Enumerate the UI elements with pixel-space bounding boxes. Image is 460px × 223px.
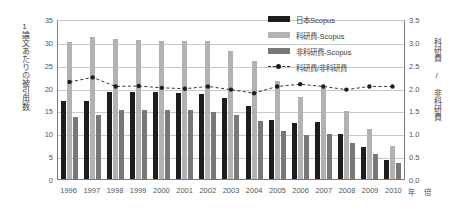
legend-line-marker-icon [268,63,290,71]
x-axis-tick: 2003 [219,186,242,195]
bar [199,94,204,179]
bar [373,154,378,179]
bar-group [173,21,196,179]
y-axis-right-unit-label: 倍 [424,186,431,197]
bar [107,92,112,179]
bar-group [81,21,104,179]
bar [350,143,355,179]
bar [269,120,274,179]
bar [96,115,101,179]
bar-group [243,21,266,179]
y-axis-right-tick: 3.0 [409,39,435,48]
x-axis-tick: 2008 [335,186,358,195]
bar [84,101,89,179]
bar [228,51,233,179]
bar-group [219,21,242,179]
y-axis-left-title: 1論文あたりの被引用数 [20,22,29,172]
x-axis-tick: 2007 [312,186,335,195]
bar [338,134,343,179]
bar-group [196,21,219,179]
x-axis-tick: 2009 [359,186,382,195]
y-axis-right-title: 科研費 / 非科研費 [432,38,441,158]
bar [142,110,147,179]
y-axis-left-tick: 30 [31,39,53,48]
legend-label: 科研費/非科研費 [296,62,347,73]
x-axis-tick: 1996 [57,186,80,195]
bar [384,160,389,179]
y-axis-left-tick: 35 [31,16,53,25]
y-axis-left-tick: 0 [31,176,53,185]
y-axis-right-tick: 2.5 [409,62,435,71]
y-axis-right-tick: 0.0 [409,176,435,185]
chart-legend: 日本Scopus 科研費-Scopus 非科研費-Scopus 科研費/非科研費 [268,12,408,76]
bar [113,39,118,179]
bar-group [58,21,81,179]
y-axis-left-tick: 25 [31,62,53,71]
y-axis-left-tick: 10 [31,130,53,139]
bar [136,40,141,179]
bar [234,115,239,179]
y-axis-right-tick: 1.5 [409,107,435,116]
bar [188,110,193,179]
bar-group [104,21,127,179]
y-axis-right-tick: 3.5 [409,16,435,25]
bar [205,41,210,179]
x-axis-tick: 1997 [80,186,103,195]
chart-container: 1論文あたりの被引用数 科研費 / 非科研費 35302520151050 3.… [0,0,460,223]
legend-item-kakenhi-scopus: 科研費-Scopus [268,28,408,42]
x-axis-tick: 2006 [289,186,312,195]
bar [222,98,227,179]
x-axis-tick: 2002 [196,186,219,195]
bar-group [127,21,150,179]
bar [396,163,401,179]
bar [281,131,286,179]
legend-swatch-icon [268,32,290,38]
x-axis-tick: 1998 [103,186,126,195]
bar [304,135,309,179]
bar [67,42,72,179]
bar [182,41,187,179]
bar [211,112,216,179]
bar [344,111,349,179]
bar [298,97,303,179]
y-axis-right-tick: 1.0 [409,130,435,139]
y-axis-left-tick: 5 [31,153,53,162]
bar [292,123,297,179]
bar [361,147,366,179]
bar [275,81,280,179]
bar [165,110,170,179]
x-axis-tick: 2005 [266,186,289,195]
legend-item-japan-scopus: 日本Scopus [268,12,408,26]
bar [119,110,124,179]
legend-item-ratio-line: 科研費/非科研費 [268,60,408,74]
bar [246,106,251,179]
bar [61,101,66,179]
legend-swatch-icon [268,48,290,54]
y-axis-left-tick: 15 [31,107,53,116]
legend-label: 日本Scopus [296,14,335,25]
bar [176,93,181,179]
bar [390,146,395,179]
bar [153,92,158,179]
legend-swatch-icon [268,16,290,22]
x-axis-tick: 1999 [127,186,150,195]
y-axis-left-tick: 20 [31,85,53,94]
bar [327,134,332,179]
y-axis-right-tick: 2.0 [409,85,435,94]
legend-label: 非科研費-Scopus [296,46,352,57]
x-axis-unit-label: 年 [408,186,415,197]
bar [130,92,135,179]
bar [252,61,257,179]
legend-item-non-kakenhi-scopus: 非科研費-Scopus [268,44,408,58]
legend-label: 科研費-Scopus [296,30,345,41]
y-axis-right-tick: 0.5 [409,153,435,162]
bar [321,88,326,179]
bar [90,37,95,179]
x-axis-tick: 2001 [173,186,196,195]
x-axis-tick: 2010 [382,186,405,195]
x-axis-tick: 2004 [243,186,266,195]
bar-group [150,21,173,179]
x-axis-tick: 2000 [150,186,173,195]
bar [258,121,263,180]
bar [73,117,78,179]
